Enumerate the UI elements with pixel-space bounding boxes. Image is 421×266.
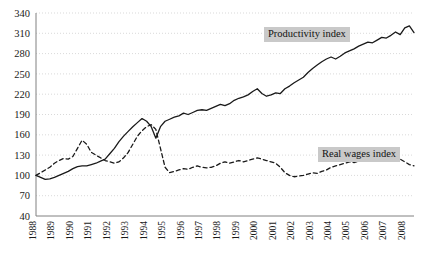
y-tick-label: 340 xyxy=(14,8,30,19)
x-tick-label: 1989 xyxy=(46,221,56,240)
x-tick-label: 2002 xyxy=(286,221,296,240)
x-tick-label: 2001 xyxy=(268,221,278,240)
x-tick-label: 1988 xyxy=(28,221,38,240)
y-tick-label: 280 xyxy=(14,48,30,59)
x-tick-label: 2005 xyxy=(341,221,351,240)
x-axis-tick-labels: 1988198919901991199219931994199519961997… xyxy=(28,221,407,240)
x-tick-label: 1994 xyxy=(139,221,149,240)
y-tick-label: 130 xyxy=(14,150,30,161)
x-tick-label: 2004 xyxy=(323,221,333,240)
series-annotation-productivity: Productivity index xyxy=(264,27,350,42)
x-tick-label: 1993 xyxy=(120,221,130,240)
y-tick-label: 100 xyxy=(14,170,30,181)
y-tick-label: 310 xyxy=(14,28,30,39)
x-tick-label: 2006 xyxy=(360,221,370,240)
chart-container: 4070100130160190220250280310340 19881989… xyxy=(0,0,421,266)
x-tick-label: 1997 xyxy=(194,221,204,240)
x-tick-label: 2000 xyxy=(249,221,259,240)
x-tick-label: 1991 xyxy=(83,221,93,240)
series-annotation-real-wages: Real wages index xyxy=(318,147,400,162)
x-tick-label: 2007 xyxy=(378,221,388,240)
y-tick-label: 70 xyxy=(20,190,31,201)
y-tick-label: 220 xyxy=(14,89,30,100)
x-tick-label: 2003 xyxy=(305,221,315,240)
y-tick-label: 190 xyxy=(14,109,30,120)
y-axis-tick-labels: 4070100130160190220250280310340 xyxy=(14,8,30,222)
gridlines xyxy=(36,13,414,196)
x-tick-label: 1999 xyxy=(231,221,241,240)
x-tick-label: 1990 xyxy=(65,221,75,240)
y-tick-label: 40 xyxy=(20,211,31,222)
x-tick-label: 1992 xyxy=(102,221,112,240)
x-tick-label: 1998 xyxy=(212,221,222,240)
x-tick-label: 1996 xyxy=(176,221,186,240)
x-tick-label: 2008 xyxy=(397,221,407,240)
x-tick-label: 1995 xyxy=(157,221,167,240)
line-chart: 4070100130160190220250280310340 19881989… xyxy=(0,0,421,266)
y-tick-label: 250 xyxy=(14,69,30,80)
y-tick-label: 160 xyxy=(14,129,30,140)
